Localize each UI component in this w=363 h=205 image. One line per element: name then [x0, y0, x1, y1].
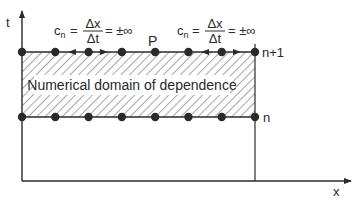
equation-left-eq: =	[70, 23, 78, 38]
grid-point-lower	[151, 113, 159, 121]
equation-right-numerator: Δx	[207, 16, 223, 31]
grid-point-upper	[118, 48, 126, 56]
domain-of-dependence-diagram: t x n+1 n P Numerical domain of dependen…	[0, 0, 363, 205]
grid-point-upper	[251, 48, 259, 56]
grid-point-lower	[84, 113, 92, 121]
grid-point-lower	[184, 113, 192, 121]
grid-point-upper	[218, 48, 226, 56]
grid-point-lower	[218, 113, 226, 121]
grid-point-upper	[84, 48, 92, 56]
grid-point-upper	[184, 48, 192, 56]
equation-left-numerator: Δx	[85, 16, 101, 31]
grid-point-lower	[18, 113, 26, 121]
equation-left-denominator: Δt	[87, 31, 100, 46]
grid-point-lower	[118, 113, 126, 121]
equation-right: cn = Δx Δt = ±∞	[177, 16, 256, 46]
grid-point-p	[151, 48, 159, 56]
grid-point-upper	[51, 48, 59, 56]
point-p-label: P	[148, 33, 157, 49]
equation-left-rhs: = ±∞	[105, 23, 133, 38]
equation-left: cn = Δx Δt = ±∞	[54, 16, 133, 46]
equation-right-rhs: = ±∞	[228, 23, 256, 38]
grid-point-lower	[251, 113, 259, 121]
grid-point-lower	[51, 113, 59, 121]
equation-left-lhs: cn	[54, 23, 66, 40]
region-label: Numerical domain of dependence	[27, 77, 237, 93]
t-axis-label: t	[6, 15, 10, 30]
equation-right-eq: =	[192, 23, 200, 38]
x-axis-label: x	[333, 184, 340, 199]
equation-right-lhs: cn	[177, 23, 189, 40]
grid-point-upper	[18, 48, 26, 56]
level-label-lower: n	[263, 110, 270, 125]
level-label-upper: n+1	[262, 45, 284, 60]
equation-right-denominator: Δt	[209, 31, 222, 46]
